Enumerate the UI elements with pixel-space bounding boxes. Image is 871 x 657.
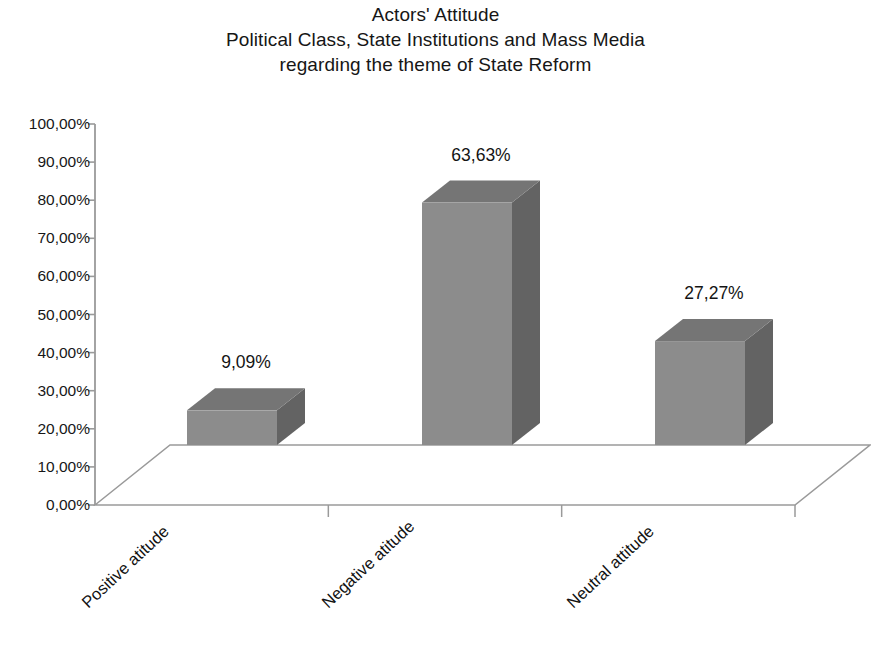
bar-side-face [512, 181, 540, 445]
floor-polygon [95, 445, 870, 505]
bar-front-face [655, 341, 745, 445]
bar-front-face [187, 410, 277, 445]
y-axis-tick-label: 30,00% [2, 382, 90, 400]
y-axis-tick-label: 80,00% [2, 191, 90, 209]
y-axis-tick-label: 0,00% [2, 496, 90, 514]
y-axis-tick-label: 20,00% [2, 420, 90, 438]
bar-value-label: 27,27% [684, 283, 743, 304]
chart-container: Actors' Attitude Political Class, State … [0, 0, 871, 657]
floor-plane [95, 445, 870, 505]
y-axis-tick-label: 60,00% [2, 267, 90, 285]
y-axis-tick-label: 100,00% [2, 115, 90, 133]
bar-3d [187, 388, 305, 445]
y-axis-tick-label: 50,00% [2, 306, 90, 324]
y-axis-tick-label: 70,00% [2, 229, 90, 247]
y-axis-tick-label: 10,00% [2, 458, 90, 476]
y-axis-tick-labels: 0,00%10,00%20,00%30,00%40,00%50,00%60,00… [0, 0, 90, 657]
y-axis-tick-label: 40,00% [2, 344, 90, 362]
bar-front-face [422, 203, 512, 445]
y-axis-tick-label: 90,00% [2, 153, 90, 171]
bar-value-label: 63,63% [451, 145, 510, 166]
bar-3d [422, 181, 540, 445]
bar-3d [655, 319, 773, 445]
bars-group [187, 181, 773, 445]
bar-value-label: 9,09% [221, 352, 271, 373]
bar-side-face [745, 319, 773, 445]
